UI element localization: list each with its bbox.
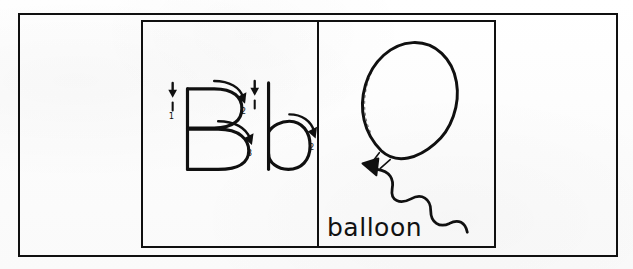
picture-panel: balloon: [319, 22, 494, 246]
balloon-neck-right: [380, 160, 390, 169]
letter-b-bowl: [269, 121, 311, 169]
stroke-arrow-B-1: [168, 83, 177, 111]
stroke-number-B-1: 1: [169, 111, 174, 121]
letter-panel: 1 2 3: [143, 22, 319, 246]
letter-B-lower-bowl: [187, 129, 248, 169]
balloon-body: [362, 43, 457, 159]
word-label: balloon: [327, 215, 422, 240]
stroke-arrow-b-1: [250, 81, 259, 109]
balloon-knot: [363, 159, 379, 176]
letter-stroke-diagram: 1 2 3: [143, 22, 317, 246]
stroke-number-B-2: 2: [241, 106, 246, 116]
worksheet-page: 1 2 3: [0, 0, 633, 269]
card-panel: 1 2 3: [141, 20, 496, 248]
stroke-number-b-2: 2: [309, 142, 314, 152]
letter-B-upper-bowl: [187, 89, 241, 128]
stroke-number-B-3: 3: [247, 148, 252, 158]
